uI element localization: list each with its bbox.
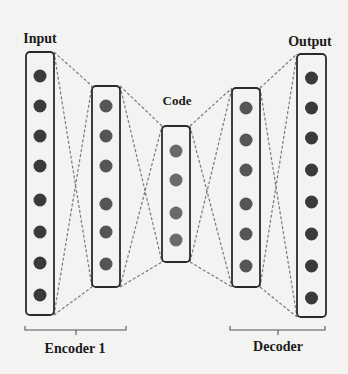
connection-line — [190, 262, 232, 287]
connection-line — [190, 88, 232, 262]
output-node — [305, 196, 318, 209]
code-label: Code — [163, 93, 192, 109]
autoencoder-diagram — [0, 0, 348, 374]
output-label: Output — [288, 34, 332, 50]
decoder-hidden-node — [240, 134, 253, 147]
encoder-hidden-node — [100, 198, 113, 211]
decoder-hidden-node — [240, 164, 253, 177]
connection-line — [54, 52, 92, 287]
input-node — [34, 226, 47, 239]
decoder-hidden-node — [240, 260, 253, 273]
connection-line — [190, 88, 232, 126]
encoder-hidden-node — [100, 258, 113, 271]
encoder-hidden-node — [100, 160, 113, 173]
input-node — [34, 257, 47, 270]
output-node — [305, 102, 318, 115]
encoder-bracket — [25, 326, 126, 335]
encoder-label: Encoder 1 — [45, 341, 106, 357]
connection-line — [54, 287, 92, 315]
input-node — [34, 194, 47, 207]
output-node — [305, 228, 318, 241]
decoder-hidden-node — [240, 198, 253, 211]
connection-line — [260, 54, 297, 88]
code-node — [170, 145, 183, 158]
input-node — [34, 160, 47, 173]
connection-line — [260, 287, 297, 317]
connection-line — [54, 86, 92, 315]
encoder-hidden-layer-box — [92, 86, 120, 287]
group-brackets — [25, 326, 325, 335]
code-node — [170, 174, 183, 187]
connection-line — [260, 88, 297, 317]
input-label: Input — [23, 31, 56, 47]
decoder-hidden-node — [240, 102, 253, 115]
output-layer-box — [297, 54, 326, 317]
output-node — [305, 292, 318, 305]
input-node — [34, 70, 47, 83]
output-node — [305, 164, 318, 177]
output-node — [305, 72, 318, 85]
decoder-label: Decoder — [253, 339, 303, 355]
connection-line — [120, 126, 162, 287]
input-layer-box — [26, 52, 54, 315]
input-node — [34, 289, 47, 302]
output-node — [305, 260, 318, 273]
code-node — [170, 234, 183, 247]
connection-line — [190, 126, 232, 287]
encoder-hidden-node — [100, 100, 113, 113]
code-node — [170, 207, 183, 220]
connection-line — [54, 52, 92, 86]
encoder-hidden-node — [100, 226, 113, 239]
input-node — [34, 130, 47, 143]
connection-line — [120, 86, 162, 126]
input-node — [34, 100, 47, 113]
connection-line — [120, 262, 162, 287]
output-node — [305, 132, 318, 145]
decoder-hidden-node — [240, 228, 253, 241]
encoder-hidden-node — [100, 130, 113, 143]
connection-line — [120, 86, 162, 262]
decoder-hidden-layer-box — [232, 88, 260, 287]
connection-line — [260, 54, 297, 287]
decoder-bracket — [230, 326, 325, 335]
